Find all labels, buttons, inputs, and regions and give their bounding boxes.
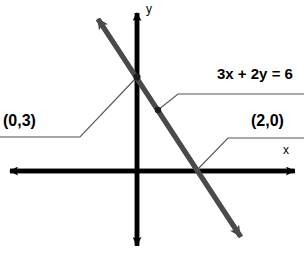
graph-figure: (0,3) (2,0) 3x + 2y = 6 x y [0,0,304,264]
point-marker-y-intercept [133,73,140,80]
plotted-line [98,19,241,237]
point-marker-equation-anchor [155,107,161,113]
x-axis-label: x [283,144,289,156]
label-y-intercept: (0,3) [3,113,36,129]
y-axis-label: y [146,3,152,15]
leader-line-equation [158,94,304,110]
label-equation: 3x + 2y = 6 [217,66,293,81]
coordinate-plane-svg [0,0,304,264]
plotted-line-lower-arrow [98,19,240,236]
label-x-intercept: (2,0) [251,113,284,129]
